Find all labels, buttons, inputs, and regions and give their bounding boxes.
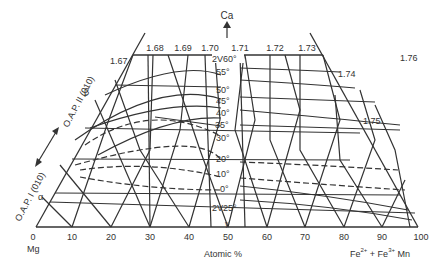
svg-text:30°: 30° <box>216 133 230 143</box>
svg-text:30: 30 <box>145 232 155 242</box>
svg-text:45°: 45° <box>216 96 230 106</box>
svg-text:60: 60 <box>262 232 272 242</box>
mg-label: Mg <box>27 244 40 254</box>
svg-text:1.67: 1.67 <box>110 56 128 66</box>
svg-text:1.75: 1.75 <box>363 116 381 126</box>
svg-text:70: 70 <box>300 232 310 242</box>
fe-mn-label: Fe2+ + Fe3+ Mn <box>350 247 410 259</box>
apex-label: Ca <box>221 10 234 21</box>
svg-text:1.72: 1.72 <box>266 43 284 53</box>
svg-text:100: 100 <box>413 232 428 242</box>
svg-text:2V60°: 2V60° <box>212 54 237 64</box>
svg-text:1.76: 1.76 <box>400 53 418 63</box>
svg-text:80: 80 <box>339 232 349 242</box>
svg-text:10: 10 <box>67 232 77 242</box>
svg-text:35°: 35° <box>215 120 229 130</box>
svg-text:1.68: 1.68 <box>146 43 164 53</box>
svg-text:20: 20 <box>106 232 116 242</box>
svg-text:0°: 0° <box>220 184 229 194</box>
x-axis-label: Atomic % <box>204 249 242 259</box>
svg-text:90: 90 <box>377 232 387 242</box>
svg-text:20°: 20° <box>216 154 230 164</box>
svg-text:O.A.P. II (010): O.A.P. II (010) <box>61 74 96 128</box>
arrowhead-icon <box>223 21 231 28</box>
svg-text:10°: 10° <box>216 169 230 179</box>
double-arrow-icon <box>38 132 56 162</box>
svg-text:1.70: 1.70 <box>201 43 219 53</box>
svg-text:γ: γ <box>225 220 229 228</box>
left-axis-labels: β α O.A.P. II (010) O.A.P. I (010) <box>13 74 96 222</box>
edge-index-labels: 1.67 1.74 1.75 1.76 <box>110 53 418 126</box>
svg-text:1.74: 1.74 <box>338 69 356 79</box>
svg-text:α: α <box>38 192 43 202</box>
x-axis: 0 10 20 30 40 50 60 70 80 90 100 Mg Atom… <box>27 232 429 259</box>
svg-text:2V25°: 2V25° <box>212 203 237 213</box>
svg-text:55°: 55° <box>216 67 230 77</box>
apex-ca: Ca <box>221 10 234 38</box>
svg-text:0: 0 <box>30 232 35 242</box>
svg-text:1.73: 1.73 <box>298 43 316 53</box>
svg-text:40°: 40° <box>216 108 230 118</box>
svg-text:40: 40 <box>184 232 194 242</box>
svg-text:1.71: 1.71 <box>231 43 249 53</box>
top-index-labels: 1.68 1.69 1.70 1.71 1.72 1.73 <box>146 43 316 53</box>
pyroxene-quadrilateral-diagram: Ca 1.68 1.69 1.70 1.71 1.72 1.73 1.67 1.… <box>0 0 437 270</box>
svg-text:50: 50 <box>223 232 233 242</box>
svg-text:50°: 50° <box>216 85 230 95</box>
svg-text:1.69: 1.69 <box>174 43 192 53</box>
